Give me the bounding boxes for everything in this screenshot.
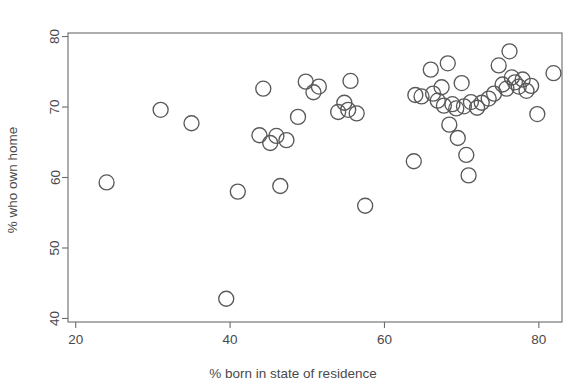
data-point xyxy=(273,178,288,193)
data-point xyxy=(153,102,168,117)
scatter-plot-figure: 20406080 4050607080 % born in state of r… xyxy=(0,0,580,390)
data-point xyxy=(256,81,271,96)
data-point xyxy=(252,128,267,143)
plot-canvas: 20406080 4050607080 % born in state of r… xyxy=(0,0,580,390)
data-point xyxy=(279,133,294,148)
data-point xyxy=(459,147,474,162)
data-point xyxy=(491,58,506,73)
data-point xyxy=(440,56,455,71)
data-point xyxy=(343,73,358,88)
data-point xyxy=(423,62,438,77)
plot-border xyxy=(68,33,562,322)
x-tick-label: 80 xyxy=(531,332,546,347)
x-tick-label: 40 xyxy=(223,332,238,347)
data-point xyxy=(406,154,421,169)
data-point xyxy=(442,117,457,132)
y-tick-label: 70 xyxy=(48,99,63,114)
data-point xyxy=(349,106,364,121)
x-axis-label: % born in state of residence xyxy=(209,366,376,381)
data-point xyxy=(358,198,373,213)
data-point xyxy=(184,116,199,131)
x-axis-ticks: 20406080 xyxy=(68,322,546,347)
y-tick-label: 40 xyxy=(48,311,63,326)
x-tick-label: 20 xyxy=(68,332,83,347)
y-tick-label: 50 xyxy=(48,240,63,255)
y-axis-ticks: 4050607080 xyxy=(48,29,69,326)
data-points-layer xyxy=(99,44,561,306)
y-tick-label: 60 xyxy=(48,170,63,185)
y-axis-label: % who own home xyxy=(5,127,20,234)
data-point xyxy=(530,107,545,122)
data-point xyxy=(230,184,245,199)
data-point xyxy=(99,175,114,190)
x-tick-label: 60 xyxy=(377,332,392,347)
plot-frame xyxy=(68,33,562,322)
data-point xyxy=(219,291,234,306)
data-point xyxy=(502,44,517,59)
data-point xyxy=(461,168,476,183)
y-tick-label: 80 xyxy=(48,29,63,44)
data-point xyxy=(450,131,465,146)
data-point xyxy=(454,76,469,91)
data-point xyxy=(546,66,561,81)
data-point xyxy=(291,109,306,124)
